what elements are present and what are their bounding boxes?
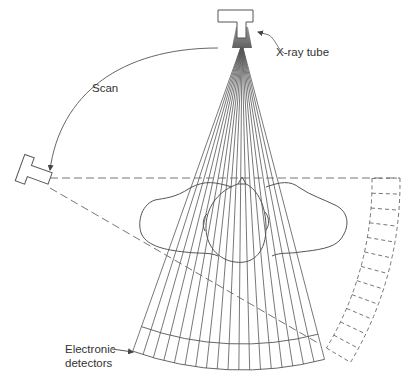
rotated-detector-arc: [326, 178, 400, 362]
diagram-canvas: [0, 0, 411, 387]
x-ray-beam-ray: [228, 48, 242, 370]
x-ray-beam-ray: [206, 48, 241, 368]
x-ray-beam-ray: [239, 48, 242, 370]
patient-head-icon: [140, 177, 347, 262]
scan-arrow-icon: [50, 48, 218, 170]
x-ray-beam-ray: [185, 48, 241, 365]
ct-scan-diagram: X-ray tube Scan Electronic detectors: [0, 0, 411, 387]
x-ray-beam-ray: [196, 48, 242, 367]
fan-beam: [133, 48, 325, 370]
x-ray-beam-ray: [243, 48, 293, 366]
x-ray-beam-ray: [143, 48, 241, 355]
x-ray-beam-ray: [243, 48, 314, 362]
rotated-xray-tube-icon: [15, 154, 55, 191]
x-ray-beam-ray: [153, 48, 241, 358]
xray-tube-label: X-ray tube: [276, 46, 329, 59]
x-ray-beam-ray: [242, 48, 260, 369]
scan-label: Scan: [92, 82, 118, 95]
rotated-beam-edge-bottom: [50, 188, 318, 343]
x-ray-beam-ray: [243, 48, 325, 360]
detectors-label-line1: Electronic: [65, 343, 116, 356]
detectors-label-line2: detectors: [65, 357, 112, 370]
x-ray-beam-ray: [242, 48, 271, 369]
